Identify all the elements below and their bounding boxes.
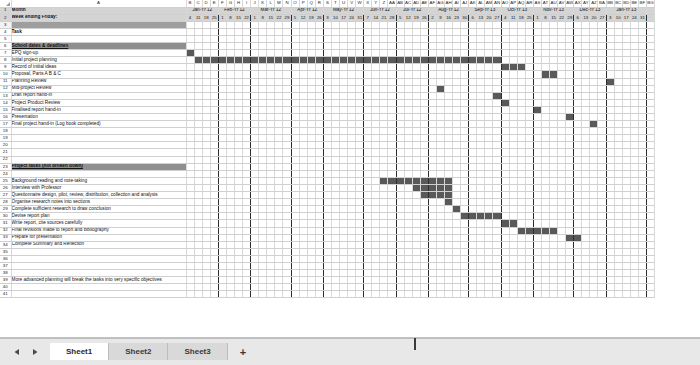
- cell-AC5[interactable]: [404, 35, 412, 42]
- cell-AU40[interactable]: [550, 284, 558, 291]
- cell-F23[interactable]: [218, 163, 226, 170]
- gantt-bar-cell[interactable]: [259, 57, 267, 64]
- cell-AY39[interactable]: [582, 277, 590, 284]
- cell-BF21[interactable]: [638, 149, 646, 156]
- cell-AW9[interactable]: [566, 64, 574, 71]
- cell-BF34[interactable]: [638, 241, 646, 248]
- column-header-BB[interactable]: BB: [606, 0, 614, 7]
- cell-N32[interactable]: [283, 227, 291, 234]
- cell-AL40[interactable]: [477, 284, 485, 291]
- cell-D19[interactable]: [202, 135, 210, 142]
- cell-O13[interactable]: [291, 92, 299, 99]
- cell-AF9[interactable]: [428, 64, 436, 71]
- cell-AY6[interactable]: [582, 43, 590, 50]
- cell-BG26[interactable]: [646, 184, 654, 191]
- cell-AR35[interactable]: [525, 248, 533, 255]
- cell-L38[interactable]: [267, 270, 275, 277]
- cell-AZ18[interactable]: [590, 128, 598, 135]
- row-header-30[interactable]: 30: [0, 213, 11, 220]
- gantt-bar-cell[interactable]: [606, 78, 614, 85]
- cell-AC32[interactable]: [404, 227, 412, 234]
- cell-AI15[interactable]: [453, 106, 461, 113]
- cell-AK20[interactable]: [469, 142, 477, 149]
- cell-AT28[interactable]: [541, 199, 549, 206]
- column-header-AB[interactable]: AB: [396, 0, 404, 7]
- cell-Y17[interactable]: [372, 121, 380, 128]
- cell-AB27[interactable]: [396, 192, 404, 199]
- cell-S11[interactable]: [323, 78, 331, 85]
- cell-BG19[interactable]: [646, 135, 654, 142]
- cell-AT30[interactable]: [541, 213, 549, 220]
- cell-Q17[interactable]: [307, 121, 315, 128]
- cell-AT25[interactable]: [541, 177, 549, 184]
- cell-AG34[interactable]: [436, 241, 444, 248]
- sheet-row-9[interactable]: 9Record of initial ideas: [0, 64, 655, 71]
- cell-BB10[interactable]: [606, 71, 614, 78]
- cell-BD14[interactable]: [622, 99, 630, 106]
- cell-BG18[interactable]: [646, 128, 654, 135]
- cell-AJ5[interactable]: [461, 35, 469, 42]
- cell-AX17[interactable]: [574, 121, 582, 128]
- cell-R35[interactable]: [315, 248, 323, 255]
- cell-AJ7[interactable]: [461, 50, 469, 57]
- cell-AA24[interactable]: [388, 170, 396, 177]
- column-header-AK[interactable]: AK: [469, 0, 477, 7]
- cell-A3[interactable]: [11, 21, 186, 28]
- cell-AL38[interactable]: [477, 270, 485, 277]
- cell-AB32[interactable]: [396, 227, 404, 234]
- cell-N19[interactable]: [283, 135, 291, 142]
- cell-BF16[interactable]: [638, 114, 646, 121]
- cell-BE13[interactable]: [630, 92, 638, 99]
- cell-AJ39[interactable]: [461, 277, 469, 284]
- cell-C27[interactable]: [194, 192, 202, 199]
- cell-AY34[interactable]: [582, 241, 590, 248]
- cell-BA28[interactable]: [598, 199, 606, 206]
- cell-AF17[interactable]: [428, 121, 436, 128]
- cell-AK18[interactable]: [469, 128, 477, 135]
- cell-BE16[interactable]: [630, 114, 638, 121]
- cell-BG35[interactable]: [646, 248, 654, 255]
- cell-S16[interactable]: [323, 114, 331, 121]
- cell-J35[interactable]: [251, 248, 259, 255]
- cell-AX4[interactable]: [574, 28, 582, 35]
- cell-AO6[interactable]: [501, 43, 509, 50]
- cell-L15[interactable]: [267, 106, 275, 113]
- cell-U33[interactable]: [339, 234, 347, 241]
- cell-AU34[interactable]: [550, 241, 558, 248]
- cell-C41[interactable]: [194, 291, 202, 298]
- row-header-8[interactable]: 8: [0, 57, 11, 64]
- cell-AV26[interactable]: [558, 184, 566, 191]
- cell-AO26[interactable]: [501, 184, 509, 191]
- cell-P19[interactable]: [299, 135, 307, 142]
- cell-H7[interactable]: [234, 50, 242, 57]
- cell-AN26[interactable]: [493, 184, 501, 191]
- cell-BE7[interactable]: [630, 50, 638, 57]
- cell-B40[interactable]: [186, 284, 194, 291]
- cell-O15[interactable]: [291, 106, 299, 113]
- cell-Z27[interactable]: [380, 192, 388, 199]
- cell-AC10[interactable]: [404, 71, 412, 78]
- cell-AP14[interactable]: [509, 99, 517, 106]
- cell-U28[interactable]: [339, 199, 347, 206]
- cell-AI5[interactable]: [453, 35, 461, 42]
- month-header-6[interactable]: Jul-Yr 12: [396, 7, 428, 14]
- cell-F15[interactable]: [218, 106, 226, 113]
- cell-V25[interactable]: [348, 177, 356, 184]
- row-header-41[interactable]: 41: [0, 291, 11, 298]
- cell-M36[interactable]: [275, 255, 283, 262]
- cell-AF20[interactable]: [428, 142, 436, 149]
- cell-AJ37[interactable]: [461, 262, 469, 269]
- week-cell-21[interactable]: 31: [356, 14, 364, 21]
- cell-AK40[interactable]: [469, 284, 477, 291]
- week-cell-29[interactable]: 26: [420, 14, 428, 21]
- cell-AG17[interactable]: [436, 121, 444, 128]
- cell-R6[interactable]: [315, 43, 323, 50]
- cell-AK6[interactable]: [469, 43, 477, 50]
- cell-O18[interactable]: [291, 128, 299, 135]
- cell-AO16[interactable]: [501, 114, 509, 121]
- column-header-U[interactable]: U: [339, 0, 347, 7]
- cell-AV40[interactable]: [558, 284, 566, 291]
- cell-AO24[interactable]: [501, 170, 509, 177]
- cell-BE32[interactable]: [630, 227, 638, 234]
- cell-AM28[interactable]: [485, 199, 493, 206]
